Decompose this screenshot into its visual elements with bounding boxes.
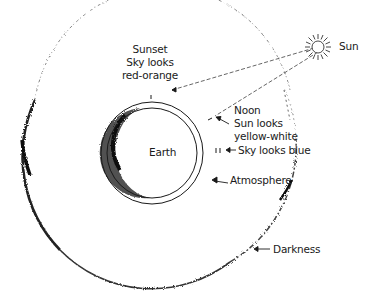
sun-label: Sun	[339, 40, 358, 53]
ray-markers	[151, 88, 220, 154]
sunset-label-line3: red-orange	[110, 69, 190, 82]
sunset-label: Sunset Sky looks red-orange	[110, 43, 190, 82]
sunset-label-line2: Sky looks	[110, 56, 190, 69]
sky-blue-label: Sky looks blue	[238, 144, 310, 157]
sunset-label-line1: Sunset	[110, 43, 190, 56]
atmosphere-label: Atmosphere	[230, 174, 292, 187]
noon-label-line1: Noon	[234, 104, 298, 117]
noon-label-line2: Sun looks	[234, 117, 298, 130]
earth-label: Earth	[149, 146, 176, 159]
noon-label-line3: yellow-white	[234, 130, 298, 143]
sun-icon	[305, 34, 331, 60]
noon-label: Noon Sun looks yellow-white	[234, 104, 298, 143]
darkness-label: Darkness	[273, 243, 320, 256]
